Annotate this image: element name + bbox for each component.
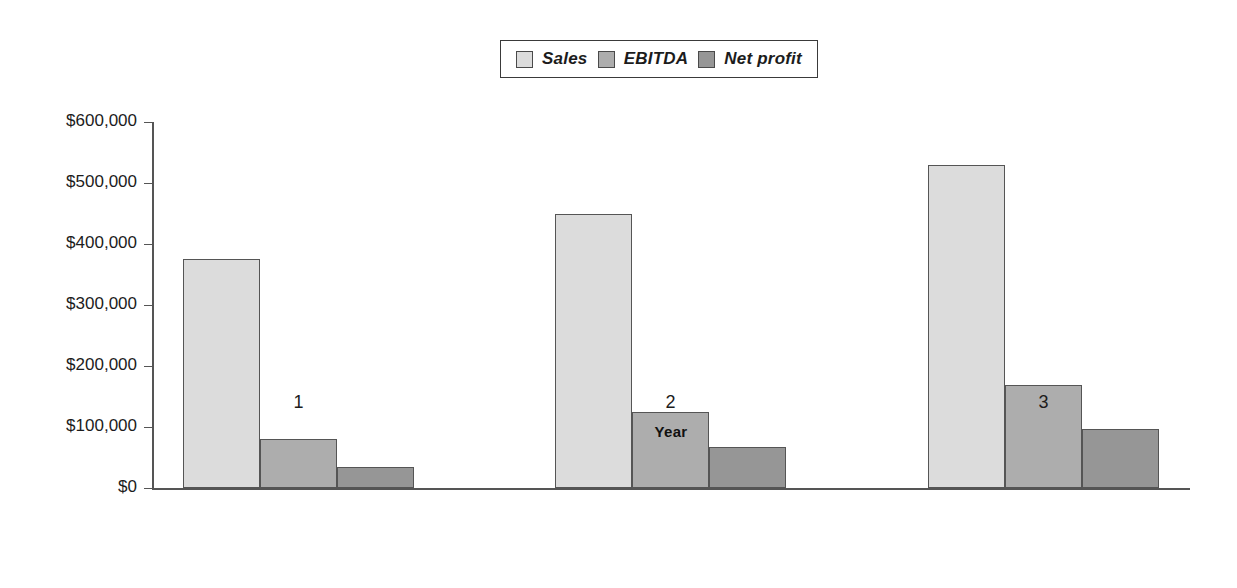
y-tick-label-2: $400,000 [66, 233, 137, 253]
y-tick-0: $600,000 [144, 122, 152, 123]
legend-entry-net-profit: Net profit [698, 49, 802, 69]
bar [337, 467, 414, 488]
x-category-label-3: 3 [1038, 392, 1048, 413]
y-tick-4: $200,000 [144, 366, 152, 367]
y-tick-label-1: $500,000 [66, 172, 137, 192]
bar-chart: Sales EBITDA Net profit $600,000$500,000… [0, 0, 1237, 588]
legend-label-sales: Sales [542, 49, 587, 69]
legend-swatch-sales [516, 51, 533, 68]
legend-entry-sales: Sales [516, 49, 587, 69]
legend-swatch-ebitda [598, 51, 615, 68]
legend-swatch-net-profit [698, 51, 715, 68]
chart-legend: Sales EBITDA Net profit [500, 40, 818, 78]
y-tick-label-4: $200,000 [66, 355, 137, 375]
bar [928, 165, 1005, 488]
bar [709, 447, 786, 488]
y-tick-label-3: $300,000 [66, 294, 137, 314]
y-tick-1: $500,000 [144, 183, 152, 184]
bar [183, 259, 260, 488]
x-axis-title: Year [655, 423, 688, 440]
y-tick-6: $0 [144, 488, 152, 489]
y-tick-3: $300,000 [144, 305, 152, 306]
y-tick-5: $100,000 [144, 427, 152, 428]
bar [1082, 429, 1159, 488]
x-category-label-1: 1 [293, 392, 303, 413]
x-category-label-2: 2 [665, 392, 675, 413]
bar [260, 439, 337, 488]
bar [555, 214, 632, 489]
y-tick-label-5: $100,000 [66, 416, 137, 436]
y-tick-label-6: $0 [118, 477, 137, 497]
legend-label-net-profit: Net profit [724, 49, 802, 69]
legend-entry-ebitda: EBITDA [598, 49, 688, 69]
y-tick-label-0: $600,000 [66, 111, 137, 131]
y-axis-line [152, 122, 154, 488]
legend-label-ebitda: EBITDA [624, 49, 688, 69]
y-tick-2: $400,000 [144, 244, 152, 245]
x-axis-line [152, 488, 1190, 490]
